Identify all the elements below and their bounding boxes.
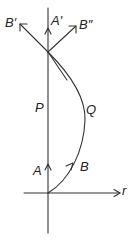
label-b-double-prime: B″ (79, 18, 92, 31)
label-r: r (122, 184, 126, 197)
label-p: P (35, 101, 44, 114)
worldline-q-extension (48, 52, 67, 80)
label-b: B (80, 160, 89, 173)
label-a: A (33, 164, 42, 177)
label-b-prime: B′ (5, 16, 16, 29)
label-a-prime: A′ (51, 14, 62, 27)
parallel-transport-diagram (0, 0, 135, 242)
vector-b-double-prime-line (48, 26, 76, 52)
vector-b-prime-line (20, 24, 48, 52)
label-q: Q (86, 103, 96, 116)
vector-b-arrowhead-icon (66, 163, 73, 170)
